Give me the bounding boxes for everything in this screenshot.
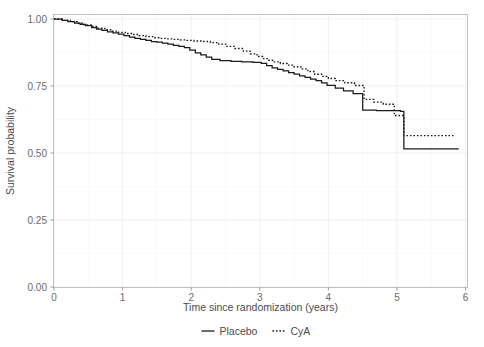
legend-label-placebo: Placebo [220,325,258,337]
y-axis-title: Survival probability [4,106,16,195]
kaplan-meier-plot: 0123456 0.000.250.500.751.00 Time since … [0,0,484,347]
y-tick-label-0.25: 0.25 [28,215,48,226]
x-axis-title: Time since randomization (years) [183,301,338,313]
y-tick-label-0.5: 0.50 [28,148,48,159]
y-tick-label-1: 1.00 [28,14,48,25]
x-tick-label-6: 6 [463,292,469,303]
legend-label-cya: CyA [290,325,310,337]
x-tick-label-0: 0 [51,292,57,303]
x-tick-label-1: 1 [120,292,126,303]
y-tick-label-0: 0.00 [28,282,48,293]
x-tick-label-5: 5 [394,292,400,303]
y-tick-label-0.75: 0.75 [28,81,48,92]
survival-chart-figure: 0123456 0.000.250.500.751.00 Time since … [0,0,484,347]
plot-panel-background [54,15,468,288]
